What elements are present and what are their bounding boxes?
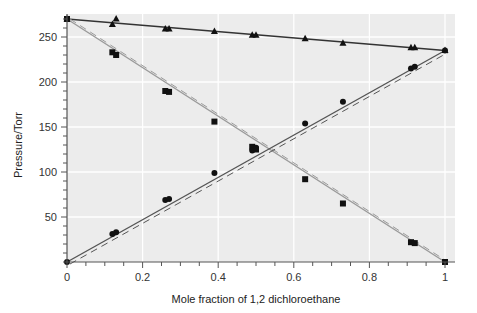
square-marker — [302, 176, 308, 182]
y-tick-label: 250 — [39, 31, 57, 43]
x-tick-label: 0 — [64, 271, 70, 283]
square-marker — [211, 119, 217, 125]
circle-marker — [113, 229, 119, 235]
circle-marker — [166, 196, 172, 202]
y-tick-label: 200 — [39, 76, 57, 88]
circle-marker — [211, 170, 217, 176]
square-marker — [166, 89, 172, 95]
x-tick-label: 0.6 — [286, 271, 301, 283]
x-tick-label: 0.8 — [362, 271, 377, 283]
pressure-composition-chart: 00.20.40.60.8150100150200250 Mole fracti… — [0, 0, 477, 313]
square-marker — [340, 201, 346, 207]
x-tick-label: 0.2 — [135, 271, 150, 283]
square-marker — [412, 240, 418, 246]
circle-marker — [302, 120, 308, 126]
circle-marker — [442, 48, 448, 54]
plot-background — [67, 14, 455, 262]
y-tick-label: 100 — [39, 166, 57, 178]
circle-marker — [340, 99, 346, 105]
y-tick-label: 150 — [39, 121, 57, 133]
x-tick-label: 0.4 — [211, 271, 226, 283]
x-tick-label: 1 — [442, 271, 448, 283]
square-marker — [113, 52, 119, 58]
y-tick-label: 50 — [45, 211, 57, 223]
circle-marker — [412, 64, 418, 70]
circle-marker — [253, 145, 259, 151]
y-axis-label: Pressure/Torr — [12, 112, 24, 178]
x-axis-label: Mole fraction of 1,2 dichloroethane — [172, 293, 341, 305]
